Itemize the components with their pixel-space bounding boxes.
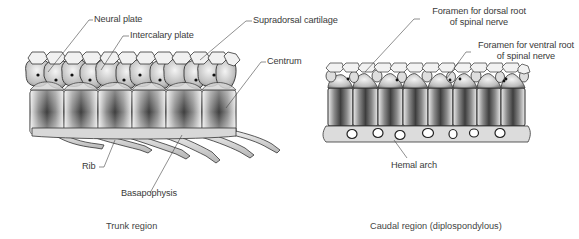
caption-caudal-region: Caudal region (diplospondylous): [370, 221, 502, 231]
label-foramen-dorsal-line1: Foramen for dorsal root: [414, 6, 544, 17]
label-foramen-ventral-line1: Foramen for ventral root: [466, 40, 579, 51]
caption-trunk-region: Trunk region: [106, 221, 157, 231]
label-foramen-ventral-line2: of spinal nerve: [466, 51, 579, 62]
trunk-vertebrae: [26, 52, 280, 163]
label-foramen-dorsal-root: Foramen for dorsal root of spinal nerve: [414, 6, 544, 28]
label-intercalary-plate: Intercalary plate: [130, 30, 194, 41]
label-supradorsal-cartilage: Supradorsal cartilage: [253, 15, 338, 26]
label-foramen-ventral-root: Foramen for ventral root of spinal nerve: [466, 40, 579, 62]
label-basapophysis: Basapophysis: [121, 188, 177, 199]
label-centrum: Centrum: [267, 56, 302, 67]
label-neural-plate: Neural plate: [94, 14, 142, 25]
label-hemal-arch: Hemal arch: [391, 160, 437, 171]
label-rib: Rib: [82, 161, 96, 172]
label-foramen-dorsal-line2: of spinal nerve: [414, 17, 544, 28]
caudal-vertebrae: [323, 63, 530, 142]
